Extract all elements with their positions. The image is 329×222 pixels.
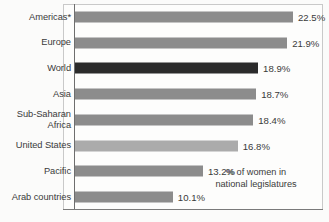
bar-value-label: 16.8% bbox=[238, 140, 270, 151]
category-label: World bbox=[0, 63, 71, 73]
bar-track: 21.9% bbox=[75, 30, 323, 56]
bar-row: Asia18.7% bbox=[0, 81, 329, 107]
bar-track: 18.4% bbox=[75, 107, 323, 133]
bar-row: Americas*22.5% bbox=[0, 4, 329, 30]
bar-value-label: 21.9% bbox=[287, 37, 319, 48]
bar-row: United States16.8% bbox=[0, 133, 329, 159]
bar-track: 18.9% bbox=[75, 56, 323, 82]
chart-caption: % of women in national legislatures bbox=[196, 166, 316, 190]
category-label: Sub-Saharan Africa bbox=[0, 109, 71, 130]
bar-value-label: 10.1% bbox=[173, 192, 205, 203]
category-label: Americas* bbox=[0, 12, 71, 22]
bar bbox=[75, 192, 173, 203]
bar-value-label: 18.4% bbox=[253, 114, 285, 125]
chart-figure: Americas*22.5%Europe21.9%World18.9%Asia1… bbox=[0, 0, 329, 222]
category-label: Arab countries bbox=[0, 192, 71, 202]
category-label: Europe bbox=[0, 37, 71, 47]
bar-row: Sub-Saharan Africa18.4% bbox=[0, 107, 329, 133]
bar-track: 16.8% bbox=[75, 133, 323, 159]
category-label: United States bbox=[0, 140, 71, 150]
bar bbox=[75, 114, 253, 125]
bar-value-label: 18.7% bbox=[256, 89, 288, 100]
bar-track: 22.5% bbox=[75, 4, 323, 30]
bar-row: Europe21.9% bbox=[0, 30, 329, 56]
category-label: Pacific bbox=[0, 166, 71, 176]
bar-row: World18.9% bbox=[0, 56, 329, 82]
bar bbox=[75, 140, 238, 151]
bar-value-label: 22.5% bbox=[293, 11, 325, 22]
category-label: Asia bbox=[0, 89, 71, 99]
bar bbox=[75, 63, 258, 74]
bar-value-label: 18.9% bbox=[258, 63, 290, 74]
bar-track: 18.7% bbox=[75, 81, 323, 107]
bar bbox=[75, 89, 256, 100]
bar bbox=[75, 37, 287, 48]
bar bbox=[75, 11, 293, 22]
bar bbox=[75, 166, 203, 177]
